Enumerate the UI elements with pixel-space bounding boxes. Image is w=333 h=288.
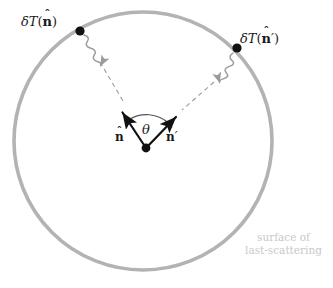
photon-wave-right-icon: [220, 53, 234, 83]
dashed-sightline-left: [100, 62, 125, 104]
close-paren: ): [274, 31, 279, 46]
caption-last-scattering-surface: surface of last-scattering: [236, 231, 331, 256]
caption-line-2: last-scattering: [236, 244, 331, 257]
label-n-hat-prime: ˆn′: [166, 131, 177, 143]
photon-wave-left-icon: [84, 35, 101, 66]
delta-symbol: δ: [240, 31, 248, 46]
prime-symbol: ′: [175, 130, 178, 144]
caption-line-1: surface of: [236, 231, 331, 244]
t-symbol: T: [29, 14, 38, 29]
observer-dot: [142, 144, 151, 153]
hat-accent-icon: ˆ: [117, 126, 122, 137]
label-delta-t-n-hat: δT(ˆn): [21, 15, 57, 28]
hat-accent-icon: ˆ: [44, 9, 50, 20]
label-theta: θ: [142, 123, 150, 136]
dashed-sightline-right: [182, 82, 214, 110]
scattering-point-left-dot: [75, 26, 84, 35]
cmb-correlation-diagram: δT(ˆn) δT(ˆn′) ˆn ˆn′ θ surface of last-…: [0, 0, 333, 288]
label-delta-t-n-hat-prime: δT(ˆn′): [240, 32, 279, 45]
label-n-hat: ˆn: [115, 131, 124, 143]
t-symbol: T: [248, 31, 257, 46]
hat-accent-icon: ˆ: [168, 126, 173, 137]
close-paren: ): [52, 14, 57, 29]
delta-symbol: δ: [21, 14, 29, 29]
hat-accent-icon: ˆ: [263, 26, 269, 37]
